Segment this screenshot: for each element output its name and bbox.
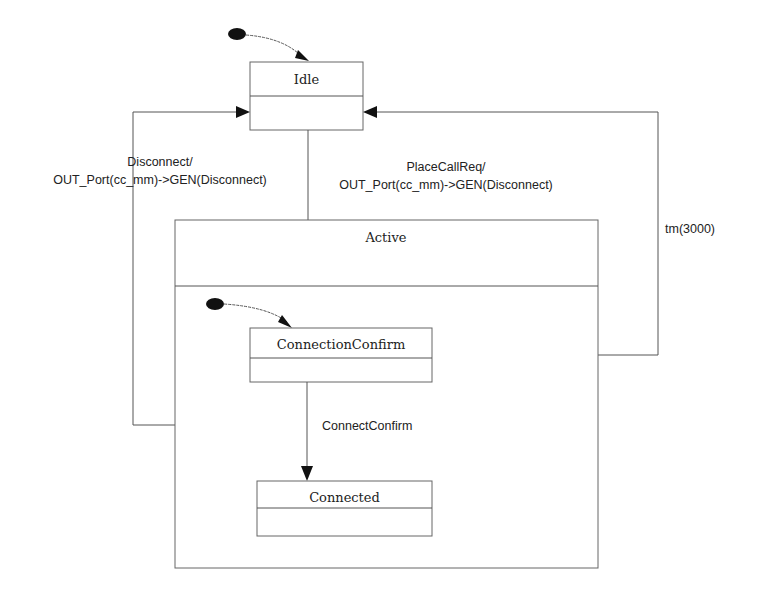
state-connected[interactable]: Connected [257, 481, 432, 536]
state-idle-label: Idle [294, 72, 320, 87]
state-connected-label: Connected [309, 490, 380, 505]
state-connection-confirm-label: ConnectionConfirm [277, 337, 405, 352]
transition-idle-to-active[interactable]: PlaceCallReq/ OUT_Port(cc_mm)->GEN(Disco… [308, 130, 553, 220]
initial-dot-icon [206, 298, 224, 310]
arrowhead-icon [236, 106, 250, 118]
initial-state-idle [228, 28, 309, 61]
initial-dot-icon [228, 28, 246, 40]
transition-label-connectconfirm: ConnectConfirm [322, 419, 412, 433]
arrowhead-icon [363, 106, 377, 118]
state-active-label: Active [364, 230, 406, 245]
state-diagram: Idle PlaceCallReq/ OUT_Port(cc_mm)->GEN(… [0, 0, 758, 603]
transition-label-placecallreq-line1: PlaceCallReq/ [406, 160, 486, 174]
transition-label-disconnect-line2: OUT_Port(cc_mm)->GEN(Disconnect) [53, 173, 267, 187]
transition-label-disconnect-line1: Disconnect/ [127, 155, 193, 169]
state-connection-confirm[interactable]: ConnectionConfirm [250, 328, 432, 382]
arrowhead-icon [295, 50, 309, 61]
transition-label-placecallreq-line2: OUT_Port(cc_mm)->GEN(Disconnect) [339, 178, 553, 192]
state-idle[interactable]: Idle [250, 62, 363, 130]
transition-label-timeout: tm(3000) [665, 222, 715, 236]
